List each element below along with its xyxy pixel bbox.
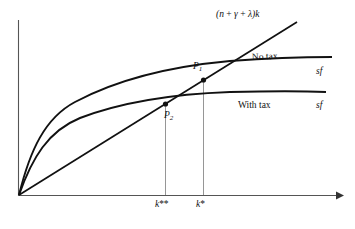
break-even-label-plus2: + bbox=[238, 9, 248, 19]
solow-growth-diagram: (n + γ + λ)k No tax sf With tax sf P1 P2… bbox=[0, 0, 355, 229]
x-axis-arrow-icon bbox=[336, 192, 344, 200]
equilibrium-point-p1-label: P1 bbox=[193, 62, 202, 73]
no-tax-curve-end-label: sf bbox=[316, 67, 322, 77]
break-even-line-label: (n + γ + λ)k bbox=[216, 10, 259, 20]
with-tax-curve-label: With tax bbox=[238, 101, 271, 111]
with-tax-curve-end-label: sf bbox=[316, 101, 322, 111]
p1-subscript: 1 bbox=[199, 65, 203, 73]
equilibrium-point-p1-marker bbox=[201, 77, 206, 82]
break-even-label-k: k bbox=[255, 9, 259, 19]
equilibrium-point-p2-label: P2 bbox=[164, 111, 173, 122]
no-tax-curve-label: No tax bbox=[252, 52, 278, 63]
saving-curve-with-tax bbox=[19, 91, 326, 195]
diagram-canvas bbox=[0, 0, 355, 229]
x-tick-label-k-double-star: k** bbox=[155, 200, 168, 210]
p2-subscript: 2 bbox=[170, 114, 174, 122]
break-even-label-plus1: + bbox=[224, 9, 234, 19]
x-tick-label-k-star: k* bbox=[196, 200, 205, 210]
k-double-star-marks: ** bbox=[159, 199, 168, 209]
k-star-marks: * bbox=[200, 199, 205, 209]
equilibrium-point-p2-marker bbox=[163, 101, 168, 106]
